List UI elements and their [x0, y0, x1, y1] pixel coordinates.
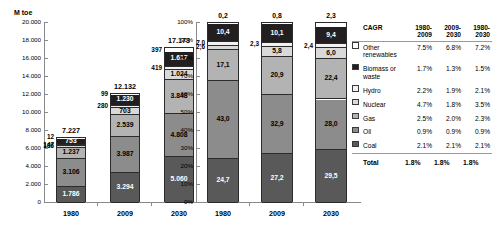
y-axis-tick-label: 70% — [169, 72, 193, 79]
legend-total-value: 1.8% — [405, 155, 434, 166]
legend-total-value: 1.8% — [434, 155, 463, 166]
legend-row-label: Coal — [363, 142, 377, 149]
legend-swatch-other-renewables-icon — [352, 42, 359, 49]
y-axis-tick-label: 60% — [169, 90, 193, 97]
segment-callout-label: 397 — [147, 46, 162, 53]
segment-value-label: 1.786 — [62, 191, 79, 198]
x-axis-category-label: 1980 — [48, 209, 94, 218]
segment-value-label: 32,9 — [270, 121, 283, 128]
y-axis-tick-label: 18.000 — [7, 36, 41, 43]
bar-segment-gas: 17,1 — [208, 50, 238, 81]
segment-value-label: 22,4 — [324, 75, 337, 82]
legend-cagr-value: 4.7% — [405, 97, 434, 111]
segment-value-label: 28,0 — [324, 121, 337, 128]
segment-value-label: 9,4 — [326, 32, 335, 39]
segment-value-label: 6,0 — [326, 50, 335, 57]
y-axis-tick-label: 12.000 — [7, 90, 41, 97]
bar-segment-nuclear: 6,0 — [316, 48, 346, 59]
legend-col-1: 1980- 2009 — [405, 24, 434, 41]
bar-segment-nuclear — [57, 146, 85, 148]
y-axis-tick — [197, 58, 200, 59]
bar-segment-gas: 22,4 — [316, 59, 346, 99]
legend-cagr-value: 1.5% — [463, 62, 492, 83]
legend-cagr-value: 0.9% — [405, 125, 434, 139]
stacked-bar: 29,528,022,46,09,4 — [315, 22, 347, 202]
y-axis-tick — [197, 148, 200, 149]
legend-cagr-value: 2.0% — [434, 111, 463, 125]
bar-segment-coal: 27,2 — [262, 154, 292, 203]
legend-row: Coal2.1%2.1%2.1% — [352, 139, 492, 153]
legend-col-1-bottom: 2009 — [405, 31, 432, 38]
y-axis-tick — [197, 202, 200, 203]
x-axis-category-label: 2030 — [156, 209, 202, 218]
legend-row: Hydro2.2%1.9%2.1% — [352, 84, 492, 98]
bar-segment-oil: 32,9 — [262, 95, 292, 154]
legend-row-label: Gas — [363, 115, 375, 122]
legend-col-1-top: 1980- — [405, 24, 432, 31]
x-axis-tick — [303, 203, 304, 206]
segment-value-label: 1.237 — [62, 149, 79, 156]
bar-segment-coal: 24,7 — [208, 159, 238, 203]
legend-col-3: 1980- 2030 — [463, 24, 492, 41]
legend-row-label-cell: Other renewables — [352, 41, 405, 62]
legend-col-2: 2009- 2030 — [434, 24, 463, 41]
y-axis-tick — [45, 94, 48, 95]
bar-segment-hydro — [111, 106, 139, 109]
bar-segment-biomass: 1.230 — [111, 95, 139, 106]
bar-segment-oil: 3.987 — [111, 137, 139, 173]
stacked-bar: 3.2943.9872.5397031.230 — [110, 93, 140, 202]
legend-row-label-cell: Coal — [352, 139, 405, 153]
y-axis-tick — [45, 184, 48, 185]
legend-row-label: Biomass or waste — [363, 65, 396, 80]
legend-row-label-cell: Hydro — [352, 84, 405, 98]
y-axis-tick-label: 0 — [7, 198, 41, 205]
segment-value-label: 29,5 — [324, 173, 337, 180]
y-axis-tick — [197, 76, 200, 77]
segment-value-label: 43,0 — [216, 116, 229, 123]
y-axis-tick-label: 20% — [169, 162, 193, 169]
bar-segment-oil: 3.106 — [57, 159, 85, 187]
legend-cagr-value: 7.2% — [463, 41, 492, 62]
x-axis-tick — [249, 203, 250, 206]
segment-top-label: 2,3 — [315, 12, 347, 19]
legend-cagr-value: 2.1% — [405, 139, 434, 153]
stacked-bar: 5.0604.8083.8481.0241.617 — [164, 47, 194, 202]
legend-row: Nuclear4.7%1.8%3.5% — [352, 97, 492, 111]
segment-callout-label: 147 — [39, 141, 54, 148]
legend-swatch-nuclear-icon — [352, 99, 359, 106]
segment-value-label: 24,7 — [216, 177, 229, 184]
segment-top-label: 0,2 — [207, 12, 239, 19]
legend-swatch-hydro-icon — [352, 85, 359, 92]
segment-callout-label: 280 — [93, 102, 108, 109]
segment-value-label: 753 — [65, 138, 76, 144]
legend-header-row: CAGR 1980- 2009 2009- 2030 1980- 2030 — [352, 24, 492, 41]
bar-segment-other-renewables — [262, 23, 292, 24]
legend-row-label: Oil — [363, 128, 371, 135]
y-axis-tick — [197, 112, 200, 113]
bar-segment-biomass: 10,4 — [208, 23, 238, 42]
bar-total-label: 12.132 — [104, 82, 146, 91]
y-axis-tick — [45, 202, 48, 203]
legend-row-label: Hydro — [363, 87, 381, 94]
y-axis-tick-label: 40% — [169, 126, 193, 133]
legend-row: Biomass or waste1.7%1.3%1.5% — [352, 62, 492, 83]
segment-callout-label: 2,0 — [190, 39, 205, 46]
legend-cagr-value: 2.1% — [463, 139, 492, 153]
segment-value-label: 3.106 — [62, 169, 79, 176]
bar-segment-gas: 1.237 — [57, 148, 85, 159]
segment-value-label: 10,4 — [216, 29, 229, 36]
legend-cagr-value: 7.5% — [405, 41, 434, 62]
segment-value-label: 20,9 — [270, 72, 283, 79]
y-axis-tick-label: 8.000 — [7, 126, 41, 133]
bar-segment-hydro — [165, 67, 193, 71]
legend-swatch-oil-icon — [352, 127, 359, 134]
y-axis-tick-label: 20.000 — [7, 18, 41, 25]
x-axis-tick — [151, 203, 152, 206]
y-axis-tick-label: 0% — [169, 198, 193, 205]
legend-cagr-value: 2.5% — [405, 111, 434, 125]
segment-callout-label: 2,3 — [244, 40, 259, 47]
legend-cagr-value: 0.9% — [434, 125, 463, 139]
bar-segment-other-renewables — [316, 23, 346, 27]
y-axis-tick-label: 2.000 — [7, 180, 41, 187]
segment-value-label: 3.987 — [116, 151, 133, 158]
